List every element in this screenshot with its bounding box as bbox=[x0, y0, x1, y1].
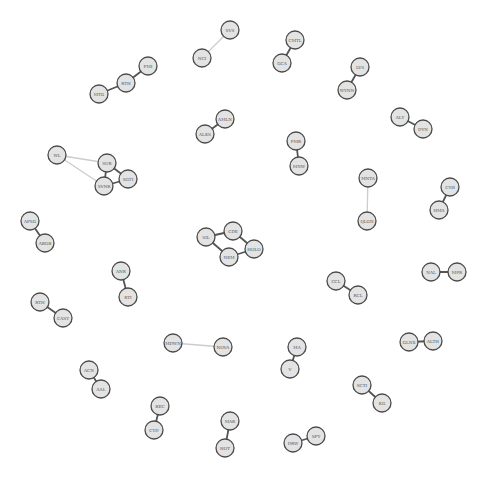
node-kg[interactable]: KG bbox=[373, 394, 391, 412]
node-abgb[interactable]: ABGB bbox=[36, 234, 54, 252]
node-nova[interactable]: NOVA bbox=[214, 338, 232, 356]
node-label: MNTA bbox=[361, 176, 376, 181]
node-label: QLGN bbox=[360, 219, 374, 224]
node-label: MDWN bbox=[165, 341, 181, 346]
node-dyn[interactable]: DYN bbox=[414, 120, 432, 138]
node-label: SVNR bbox=[98, 184, 112, 189]
node-label: SCTI bbox=[357, 383, 368, 388]
node-label: FMR bbox=[291, 139, 302, 144]
node-rcl[interactable]: RCL bbox=[349, 286, 367, 304]
node-wynn[interactable]: WYNN bbox=[338, 81, 356, 99]
node-svs[interactable]: SVS bbox=[221, 21, 239, 39]
node-cyh[interactable]: CYH bbox=[441, 178, 459, 196]
node-label: MPR bbox=[452, 270, 463, 275]
node-acn[interactable]: ACN bbox=[80, 361, 98, 379]
node-sil[interactable]: SIL bbox=[197, 228, 215, 246]
node-mpr[interactable]: MPR bbox=[448, 263, 466, 281]
node-label: WL bbox=[53, 153, 60, 158]
node-label: RTH bbox=[35, 300, 45, 305]
node-label: KG bbox=[379, 401, 386, 406]
node-label: ABGB bbox=[38, 241, 52, 246]
node-label: CASY bbox=[57, 316, 69, 321]
node-aly[interactable]: ALY bbox=[391, 108, 409, 126]
node-label: CYD bbox=[149, 428, 159, 433]
node-label: SFY bbox=[312, 434, 321, 439]
node-label: ACN bbox=[83, 368, 94, 373]
node-ccl[interactable]: CCL bbox=[327, 272, 345, 290]
node-wl[interactable]: WL bbox=[48, 146, 66, 164]
node-mnta[interactable]: MNTA bbox=[359, 169, 377, 187]
node-cmtl[interactable]: CMTL bbox=[286, 31, 304, 49]
node-ma[interactable]: MA bbox=[288, 338, 306, 356]
node-svnr[interactable]: SVNR bbox=[95, 177, 113, 195]
node-label: SIL bbox=[202, 235, 210, 240]
node-label: ALKS bbox=[198, 132, 211, 137]
node-label: AAL bbox=[96, 387, 106, 392]
node-sur[interactable]: SUR bbox=[98, 154, 116, 172]
node-label: HOT bbox=[220, 446, 230, 451]
node-label: ALY bbox=[395, 115, 405, 120]
node-label: RTI bbox=[124, 295, 132, 300]
node-casy[interactable]: CASY bbox=[54, 309, 72, 327]
node-scti[interactable]: SCTI bbox=[353, 376, 371, 394]
node-alth[interactable]: ALTH bbox=[424, 332, 442, 350]
node-cde[interactable]: CDE bbox=[224, 222, 242, 240]
node-label: HMA bbox=[434, 208, 446, 213]
node-label: ANR bbox=[115, 269, 127, 274]
node-gca[interactable]: GCA bbox=[273, 54, 291, 72]
node-label: LVS bbox=[356, 65, 364, 70]
node-fmr[interactable]: FMR bbox=[287, 132, 305, 150]
node-label: RTH bbox=[121, 81, 131, 86]
node-label: SUR bbox=[102, 161, 112, 166]
node-hot[interactable]: HOT bbox=[216, 439, 234, 457]
node-alks[interactable]: ALKS bbox=[196, 125, 214, 143]
node-pmi[interactable]: PMI bbox=[139, 57, 157, 75]
node-label: CDE bbox=[228, 229, 238, 234]
node-label: AFSG bbox=[23, 219, 37, 224]
node-nal[interactable]: NAL bbox=[422, 263, 440, 281]
node-cyd[interactable]: CYD bbox=[145, 421, 163, 439]
node-sgti[interactable]: SGTI bbox=[119, 170, 137, 188]
node-nem[interactable]: NEM bbox=[220, 248, 238, 266]
node-label: NAL bbox=[426, 270, 436, 275]
node-rth[interactable]: RTH bbox=[117, 74, 135, 92]
node-label: CYH bbox=[445, 185, 455, 190]
node-mar[interactable]: MAR bbox=[221, 412, 239, 430]
node-v[interactable]: V bbox=[281, 360, 299, 378]
node-anr[interactable]: ANR bbox=[112, 262, 130, 280]
node-drw[interactable]: DRW bbox=[284, 434, 302, 452]
node-hma[interactable]: HMA bbox=[430, 201, 448, 219]
node-glnx[interactable]: GLNX bbox=[400, 333, 418, 351]
node-label: GLNX bbox=[403, 340, 416, 345]
node-rth2[interactable]: RTH bbox=[31, 293, 49, 311]
node-afsg[interactable]: AFSG bbox=[21, 212, 39, 230]
node-label: GCA bbox=[277, 61, 288, 66]
node-label: AMLN bbox=[217, 117, 232, 122]
node-label: WYNN bbox=[340, 88, 355, 93]
node-label: NOVA bbox=[217, 345, 231, 350]
node-label: SGTI bbox=[123, 177, 134, 182]
node-sfy[interactable]: SFY bbox=[307, 427, 325, 445]
node-label: HOLO bbox=[247, 247, 261, 252]
node-label: CCL bbox=[331, 279, 340, 284]
node-rti[interactable]: RTI bbox=[119, 288, 137, 306]
node-holo[interactable]: HOLO bbox=[245, 240, 263, 258]
node-label: SVS bbox=[226, 28, 235, 33]
node-label: DRW bbox=[288, 441, 299, 446]
node-label: RCL bbox=[353, 293, 362, 298]
node-amln[interactable]: AMLN bbox=[216, 110, 234, 128]
node-label: NEM bbox=[223, 255, 235, 260]
node-mdwn[interactable]: MDWN bbox=[164, 334, 182, 352]
node-qlgn[interactable]: QLGN bbox=[358, 212, 376, 230]
node-label: ALTH bbox=[426, 339, 439, 344]
network-graph: SVSNCIPMIRTHMTGCMTLGCALVSWYNNALYDYNAMLNA… bbox=[0, 0, 488, 478]
node-mtg[interactable]: MTG bbox=[90, 85, 108, 103]
node-label: DYN bbox=[418, 127, 428, 132]
node-lvs[interactable]: LVS bbox=[351, 58, 369, 76]
node-nci[interactable]: NCI bbox=[193, 49, 211, 67]
node-bec[interactable]: BEC bbox=[151, 397, 169, 415]
node-mnw[interactable]: MNW bbox=[290, 157, 308, 175]
node-label: MAR bbox=[225, 419, 236, 424]
node-aal[interactable]: AAL bbox=[92, 380, 110, 398]
node-label: BEC bbox=[155, 404, 164, 409]
